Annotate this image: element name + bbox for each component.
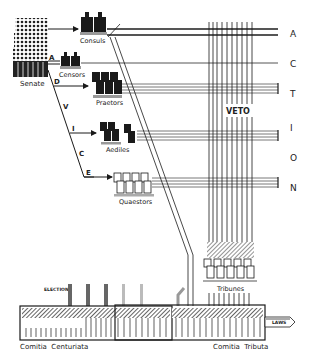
action-letter-o: O xyxy=(290,153,297,163)
action-letter-n: N xyxy=(290,183,297,193)
veto-lines xyxy=(209,22,252,242)
praetors-icon xyxy=(92,72,122,98)
action-letter-c: C xyxy=(290,59,296,69)
veto-label: VETO xyxy=(226,107,250,116)
election-label: ELECTION xyxy=(44,287,69,292)
comitia-centuriata-label: Comitia Centuriata xyxy=(20,343,88,351)
advice-letter-e: E xyxy=(86,169,91,177)
quaestors-icon xyxy=(114,173,154,197)
advice-letter-i: I xyxy=(72,125,75,133)
quaestors-label: Quaestors xyxy=(119,198,153,206)
roman-constitution-diagram: Senate A D V I C E Consuls Censors Praet… xyxy=(0,0,313,355)
senate-crowd-icon xyxy=(13,18,48,77)
consul-election-line xyxy=(110,37,188,306)
censors-label: Censors xyxy=(59,71,86,79)
advice-letter-v: V xyxy=(63,103,69,111)
action-letter-t: T xyxy=(289,89,296,99)
tribunes-icon xyxy=(203,259,257,282)
praetors-label: Praetors xyxy=(96,99,124,107)
senate-label: Senate xyxy=(20,80,45,88)
advice-letter-a: A xyxy=(49,54,55,62)
consuls-icon xyxy=(80,12,107,35)
tribunes-label: Tribunes xyxy=(216,285,245,293)
veto-crossing xyxy=(207,242,254,258)
laws-label: LAWS xyxy=(272,320,286,325)
election-pillars xyxy=(68,284,184,306)
censors-icon xyxy=(60,52,81,69)
comitia-tributa-label: Comitia Tributa xyxy=(213,343,268,351)
action-letter-i: I xyxy=(290,123,293,133)
action-letter-a: A xyxy=(290,29,297,39)
aediles-icon xyxy=(100,122,135,145)
advice-letter-d: D xyxy=(54,78,60,86)
advice-letter-c: C xyxy=(79,150,84,158)
aediles-label: Aediles xyxy=(106,146,130,154)
consuls-label: Consuls xyxy=(80,37,106,45)
